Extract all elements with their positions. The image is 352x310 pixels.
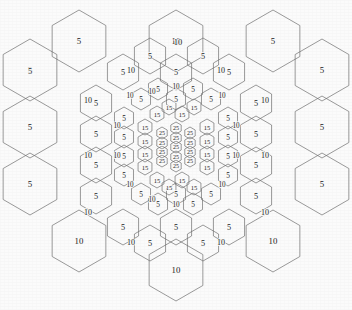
hex-cell-label: 5 — [254, 161, 258, 170]
hex-cell-label: 5 — [320, 122, 325, 132]
hex-cell-label: 25 — [173, 154, 179, 160]
hex-cell-label: 15 — [179, 177, 186, 184]
hex-cell-label: 15 — [142, 164, 149, 171]
hex-cell-label: 15 — [154, 177, 161, 184]
hex-cell-label: 5 — [226, 114, 230, 123]
hex-cell-label: 15 — [204, 164, 211, 171]
hex-cell-label: 5 — [254, 192, 258, 201]
hex-cell-label: 15 — [142, 138, 149, 145]
hex-boundary-label: 10 — [113, 122, 121, 130]
hex-cell-label: 5 — [148, 239, 152, 248]
hex-cell-label: 5 — [28, 122, 33, 132]
hex-cell-label: 5 — [122, 152, 126, 161]
boundary-label-layer: 1051010101010101010101010101010101010101… — [28, 37, 269, 247]
hex-cell-label: 5 — [209, 95, 213, 104]
hex-cell-label: 5 — [320, 179, 325, 189]
hex-cell-label: 15 — [191, 184, 198, 191]
hex-cell-label: 15 — [204, 124, 211, 131]
hex-boundary-label: 10 — [127, 238, 135, 247]
hex-cell-label: 5 — [139, 190, 143, 199]
hex-cell-label: 5 — [174, 190, 178, 199]
hex-cell-label: 5 — [174, 95, 178, 104]
hex-cell-label: 25 — [173, 125, 179, 131]
hex-cell-label: 5 — [227, 68, 231, 77]
hex-boundary-label: 10 — [113, 152, 121, 160]
hex-cell-label: 5 — [254, 130, 258, 139]
hex-cell-label: 15 — [179, 111, 186, 118]
hex-cell-label: 5 — [191, 85, 195, 94]
hex-cell-label: 5 — [156, 85, 160, 94]
hex-cell-label: 25 — [187, 130, 193, 136]
hex-cell-label: 25 — [173, 144, 179, 150]
hex-cell-label: 15 — [166, 184, 173, 191]
hex-cell-label: 5 — [226, 152, 230, 161]
hex-cell-label: 15 — [191, 104, 198, 111]
hex-boundary-label: 10 — [84, 208, 92, 217]
hex-cell-label: 5 — [122, 114, 126, 123]
hex-cell-label: 25 — [173, 135, 179, 141]
hex-cell-label: 5 — [201, 239, 205, 248]
hex-boundary-label: 10 — [261, 96, 269, 105]
hex-cell-label: 5 — [94, 130, 98, 139]
hex-boundary-label: 10 — [232, 122, 240, 130]
hex-cell-label: 15 — [142, 124, 149, 131]
hex-cell-label: 25 — [187, 158, 193, 164]
hex-cell-label: 5 — [28, 179, 33, 189]
hex-cell-label: 5 — [201, 52, 205, 61]
hex-cell-label: 5 — [77, 36, 82, 46]
hexagonal-grid-figure: 5555101010510555555555555555555555555555… — [0, 0, 352, 310]
hex-cell-label: 5 — [139, 95, 143, 104]
hex-boundary-label: 10 — [148, 88, 156, 96]
hex-boundary-label: 10 — [127, 66, 135, 75]
hex-boundary-label: 10 — [84, 96, 92, 105]
hex-boundary-label: 10 — [261, 208, 269, 217]
hex-cell-label: 25 — [173, 163, 179, 169]
hex-cell-label: 5 — [174, 223, 178, 232]
hex-grid-svg: 5555101010510555555555555555555555555555… — [0, 0, 352, 310]
hex-boundary-label: 10 — [84, 151, 92, 160]
hex-cell-label: 5 — [94, 192, 98, 201]
hex-boundary-label: 10 — [218, 181, 226, 189]
hex-boundary-label: 10 — [217, 238, 225, 247]
hex-boundary-label: 10 — [172, 83, 180, 91]
hex-boundary-label: 10 — [174, 37, 183, 47]
hex-cell-label: 5 — [191, 200, 195, 209]
hex-cell-label: 5 — [121, 223, 125, 232]
hex-cell-label: 5 — [227, 223, 231, 232]
hex-cell-label: 5 — [148, 52, 152, 61]
hex-cell-label: 5 — [174, 68, 178, 77]
hex-cell-label: 5 — [226, 171, 230, 180]
hex-cell-label: 5 — [156, 200, 160, 209]
hex-boundary-label: 10 — [217, 66, 225, 75]
hex-cell-label: 15 — [154, 111, 161, 118]
hex-boundary-label: 10 — [126, 181, 134, 189]
hex-cell-label: 10 — [172, 265, 181, 275]
hex-cell-label: 5 — [121, 68, 125, 77]
hex-cell-label: 25 — [159, 130, 165, 136]
hex-cell-label: 15 — [204, 138, 211, 145]
hex-boundary-label: 10 — [232, 152, 240, 160]
hex-cell-label: 5 — [94, 99, 98, 108]
hex-boundary-label: 10 — [126, 92, 134, 100]
hex-cell-label: 5 — [254, 99, 258, 108]
hex-cell-label: 25 — [159, 149, 165, 155]
hex-cell-label: 25 — [159, 158, 165, 164]
hex-boundary-label: 5 — [28, 66, 32, 76]
hex-cell-label: 10 — [269, 236, 278, 246]
hex-cell-label: 5 — [271, 36, 276, 46]
hex-cell-label: 25 — [187, 140, 193, 146]
hex-cell-label: 5 — [209, 190, 213, 199]
hex-cell-label: 10 — [75, 236, 84, 246]
hex-boundary-label: 10 — [148, 196, 156, 204]
hex-cell-label: 15 — [204, 151, 211, 158]
hex-cell-label: 5 — [94, 161, 98, 170]
hex-cell-label: 15 — [142, 151, 149, 158]
hex-cell-label: 5 — [122, 171, 126, 180]
hex-cell-label: 5 — [320, 65, 325, 75]
hex-boundary-label: 10 — [218, 92, 226, 100]
hex-boundary-label: 10 — [261, 151, 269, 160]
hex-cell-label: 5 — [122, 133, 126, 142]
hex-cell-label: 25 — [187, 149, 193, 155]
hex-cell-label: 5 — [226, 133, 230, 142]
hex-cell-label: 25 — [159, 140, 165, 146]
